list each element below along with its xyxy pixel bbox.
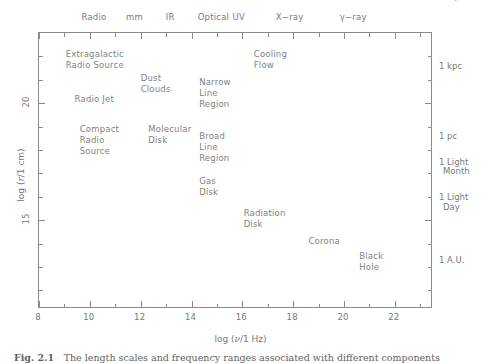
annotation-line: Black <box>359 251 383 262</box>
tick-mark <box>344 33 345 39</box>
annotation-line: Radio Jet <box>75 94 114 105</box>
annotation-line: Compact <box>80 124 119 135</box>
tick-mark <box>115 33 116 37</box>
x-tick-label: 14 <box>185 312 196 322</box>
y-tick-label: 20 <box>21 97 31 108</box>
tick-mark <box>39 197 43 198</box>
x-tick-label: 10 <box>83 312 94 322</box>
scale-label-line1: 1 A.U. <box>439 255 464 265</box>
band-label-ir: IR <box>166 12 175 22</box>
scale-label-line1: 1 pc <box>439 131 457 141</box>
tick-mark <box>166 304 167 308</box>
tick-mark <box>90 33 91 39</box>
annotation-line: Dust <box>141 73 171 84</box>
x-tick-label: 12 <box>134 312 145 322</box>
scale-label: 1 LightMonth <box>439 158 470 177</box>
band-label-ray: γ−ray <box>340 12 367 22</box>
scale-label-line2: Day <box>439 203 468 213</box>
annotation-radiation-disk: RadiationDisk <box>244 208 286 230</box>
tick-mark <box>428 290 432 291</box>
tick-mark <box>369 304 370 308</box>
annotation-line: Disk <box>199 187 218 198</box>
x-tick-label: 22 <box>388 312 399 322</box>
tick-mark <box>39 301 40 307</box>
tick-mark <box>425 103 431 104</box>
scale-label-line1: 1 Light <box>439 157 468 167</box>
tick-mark <box>115 304 116 308</box>
scale-label-line2: Month <box>439 167 470 177</box>
tick-mark <box>64 33 65 37</box>
tick-mark <box>242 301 243 307</box>
annotation-line: Radiation <box>244 208 286 219</box>
band-label-xray: X−ray <box>276 12 304 22</box>
tick-mark <box>64 304 65 308</box>
band-label-radio: Radio <box>81 12 106 22</box>
tick-mark <box>344 301 345 307</box>
scale-label: 1 Mpc <box>439 0 465 1</box>
tick-mark <box>90 301 91 307</box>
tick-mark <box>428 197 432 198</box>
tick-mark <box>428 173 432 174</box>
tick-mark <box>39 220 45 221</box>
annotation-line: Line <box>199 88 231 99</box>
tick-mark <box>39 80 43 81</box>
tick-mark <box>141 301 142 307</box>
tick-mark <box>395 33 396 39</box>
annotation-dust-clouds: DustClouds <box>141 73 171 95</box>
annotation-molecular-disk: MolecularDisk <box>148 124 191 146</box>
annotation-line: Radio Source <box>66 60 124 71</box>
annotation-line: Radio <box>80 135 119 146</box>
tick-mark <box>166 33 167 37</box>
tick-mark <box>39 127 43 128</box>
x-tick-label: 16 <box>236 312 247 322</box>
annotation-black-hole: BlackHole <box>359 251 383 273</box>
x-tick-label: 8 <box>35 312 41 322</box>
annotation-line: Cooling <box>254 49 287 60</box>
y-title-prefix: log ( <box>16 182 26 202</box>
figure-caption: Fig. 2.1 The length scales and frequency… <box>14 352 474 363</box>
tick-mark <box>217 33 218 37</box>
scale-label: 1 pc <box>439 132 457 142</box>
scale-label-line1: 1 Mpc <box>439 0 465 1</box>
tick-mark <box>39 33 40 39</box>
tick-mark <box>192 301 193 307</box>
annotation-line: Disk <box>148 135 191 146</box>
annotation-line: Extragalactic <box>66 49 124 60</box>
x-axis-title: log (ν/1 Hz) <box>0 334 481 344</box>
tick-mark <box>319 33 320 37</box>
annotation-compact-radio-source: CompactRadioSource <box>80 124 119 157</box>
tick-mark <box>39 103 45 104</box>
annotation-line: Hole <box>359 262 383 273</box>
caption-number: Fig. 2.1 <box>14 352 54 363</box>
annotation-broad-line-region: BroadLineRegion <box>199 131 229 164</box>
tick-mark <box>319 304 320 308</box>
x-tick-label: 18 <box>287 312 298 322</box>
tick-mark <box>242 33 243 39</box>
scale-label-line1: 1 kpc <box>439 61 462 71</box>
tick-mark <box>369 33 370 37</box>
tick-mark <box>428 244 432 245</box>
tick-mark <box>39 267 43 268</box>
y-title-variable: r <box>16 177 26 181</box>
annotation-line: Broad <box>199 131 229 142</box>
x-title-prefix: log ( <box>214 334 234 344</box>
tick-mark <box>39 56 43 57</box>
annotation-line: Corona <box>308 236 339 247</box>
band-label-uv: UV <box>233 12 245 22</box>
annotation-corona: Corona <box>308 236 339 247</box>
x-title-suffix: /1 Hz) <box>240 334 267 344</box>
tick-mark <box>395 301 396 307</box>
tick-mark <box>293 33 294 39</box>
scale-label: 1 kpc <box>439 62 462 72</box>
annotation-line: Region <box>199 153 229 164</box>
annotation-line: Source <box>80 146 119 157</box>
tick-mark <box>428 80 432 81</box>
annotation-extragalactic-radio-source: ExtragalacticRadio Source <box>66 49 124 71</box>
tick-mark <box>420 304 421 308</box>
x-tick-label: 20 <box>337 312 348 322</box>
tick-mark <box>268 33 269 37</box>
tick-mark <box>428 267 432 268</box>
annotation-line: Gas <box>199 176 218 187</box>
scale-label: 1 A.U. <box>439 256 464 266</box>
y-axis-title: log (r/1 cm) <box>16 130 26 220</box>
